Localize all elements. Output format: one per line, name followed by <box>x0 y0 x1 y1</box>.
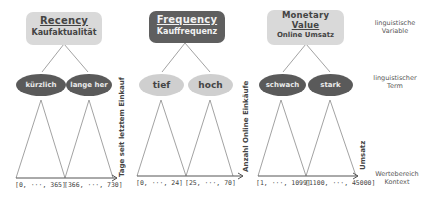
axis-label-recency: Tage seit letztem Einkauf <box>118 77 126 177</box>
axis-label-monetary: Umsatz <box>359 141 367 170</box>
range-frequency-2: [25, ···, 70] <box>185 179 236 187</box>
term-node-stark: stark <box>308 74 353 96</box>
variable-title-line2: Value <box>267 20 344 30</box>
variable-box-recency: Recency Kaufaktualität <box>26 12 102 45</box>
range-recency-2: [366, ···, 730] <box>64 181 123 189</box>
variable-title: Frequency <box>149 14 225 26</box>
variable-subtitle: Kaufaktualität <box>26 27 102 38</box>
term-label: stark <box>320 81 340 89</box>
term-label: tief <box>153 80 170 90</box>
term-label: schwach <box>266 81 300 89</box>
term-label: lange her <box>70 81 108 89</box>
range-frequency-1: [0, ···, 24] <box>136 179 183 187</box>
variable-subtitle: Kauffrequenz <box>149 26 225 37</box>
variable-title: Recency <box>26 15 102 27</box>
legend-linguistic-term: linguistischer Term <box>370 74 420 90</box>
range-monetary-2: [1100, ···, 45000] <box>305 179 375 187</box>
variable-subtitle: Online Umsatz <box>267 30 344 40</box>
term-node-lange-her: lange her <box>66 74 112 96</box>
term-node-schwach: schwach <box>259 74 306 96</box>
term-node-hoch: hoch <box>188 74 233 96</box>
range-monetary-1: [1, ···, 1099] <box>256 179 311 187</box>
legend-value-range-context: Wertebereich Kontext <box>372 170 422 186</box>
variable-box-monetary-value: Monetary Value Online Umsatz <box>267 10 344 45</box>
term-node-tief: tief <box>139 74 184 96</box>
term-label: kürzlich <box>25 81 56 89</box>
term-label: hoch <box>198 80 222 90</box>
range-recency-1: [0, ···, 365] <box>15 181 66 189</box>
axis-label-frequency: Anzahl Online Einkäufe <box>242 81 250 172</box>
variable-box-frequency: Frequency Kauffrequenz <box>149 11 225 43</box>
legend-linguistic-variable: linguistische Variable <box>370 19 420 35</box>
term-node-kuerzlich: kürzlich <box>16 74 66 96</box>
variable-title-line1: Monetary <box>267 11 344 20</box>
